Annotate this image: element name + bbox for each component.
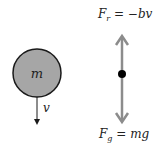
- gravity-force-label: Fg = mg: [98, 127, 150, 143]
- point-mass-dot: [118, 70, 126, 78]
- drag-force-label: Fr = −bv: [97, 7, 153, 23]
- diagram-canvas: m v Fr = −bv Fg = mg: [0, 0, 157, 157]
- free-body-arrow: [116, 36, 128, 122]
- mass-label: m: [31, 66, 43, 81]
- velocity-label: v: [43, 101, 50, 115]
